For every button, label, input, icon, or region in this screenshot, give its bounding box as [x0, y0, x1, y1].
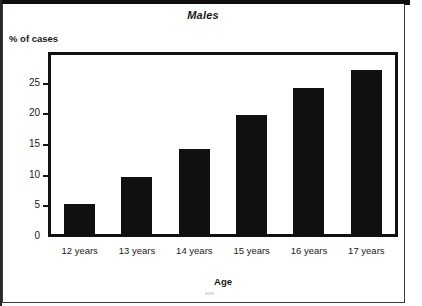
plot-area — [51, 55, 395, 236]
y-axis-tick-mark — [43, 205, 49, 207]
bar — [236, 115, 267, 236]
x-axis-tick-label: 15 years — [223, 245, 281, 256]
x-axis-tick-label: 12 years — [51, 245, 109, 256]
x-axis-tick-label: 14 years — [165, 245, 223, 256]
bar — [179, 149, 210, 236]
y-axis-tick-label: 25 — [14, 77, 40, 88]
bar-slot — [51, 55, 108, 236]
y-axis-tick-mark — [43, 113, 49, 115]
bar-slot — [166, 55, 223, 236]
bar-slot — [338, 55, 395, 236]
bar-slot — [108, 55, 165, 236]
bar — [293, 88, 324, 236]
x-axis-title: Age — [48, 276, 398, 287]
y-axis-tick-label: 20 — [14, 107, 40, 118]
y-axis-tick-label: 15 — [14, 138, 40, 149]
chart-title: Males — [0, 9, 406, 21]
y-axis-tick-label: 0 — [14, 230, 40, 241]
y-axis-tick-mark — [43, 144, 49, 146]
bar-series — [51, 55, 395, 236]
bar-slot — [280, 55, 337, 236]
x-axis-tick-label: 13 years — [108, 245, 166, 256]
bar — [351, 70, 382, 236]
bar-slot — [223, 55, 280, 236]
y-axis-tick-mark — [43, 175, 49, 177]
scan-speck — [205, 292, 214, 295]
y-axis-tick-label: 5 — [14, 199, 40, 210]
bar — [64, 204, 95, 236]
bar — [121, 177, 152, 236]
x-axis-tick-label: 16 years — [280, 245, 338, 256]
y-axis-tick-mark — [43, 83, 49, 85]
y-axis-title: % of cases — [9, 33, 58, 44]
y-axis-tick-label: 10 — [14, 169, 40, 180]
x-axis-tick-label: 17 years — [337, 245, 395, 256]
chart-page: Males % of cases 0510152025 12 years13 y… — [0, 0, 422, 306]
